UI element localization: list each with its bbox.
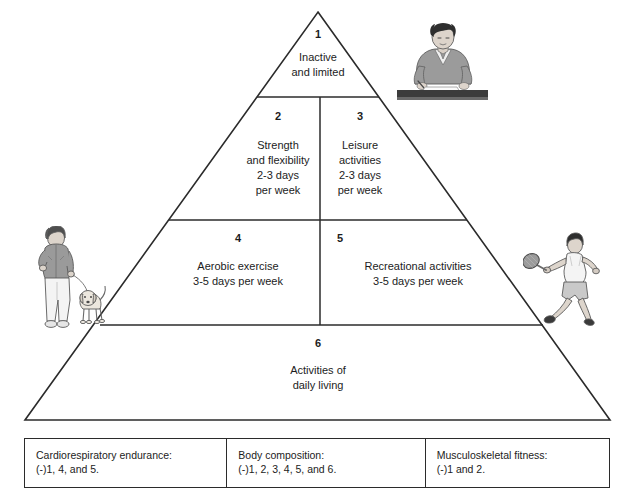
person-seated-at-desk-illustration bbox=[395, 22, 490, 102]
legend-cell-cardiorespiratory-endurance: Cardiorespiratory endurance: (-)1, 4, an… bbox=[25, 439, 226, 487]
legend-cell-musculoskeletal-fitness: Musculoskeletal fitness: (-)1 and 2. bbox=[425, 439, 609, 487]
tennis-player-illustration bbox=[523, 232, 605, 332]
tier-6-line-2: daily living bbox=[253, 378, 383, 393]
tier-5-line-2: 3-5 days per week bbox=[320, 274, 516, 289]
tier-4-number: 4 bbox=[218, 232, 258, 244]
legend-cell-2-detail: (-)1 and 2. bbox=[437, 462, 609, 476]
legend-cell-1-detail: (-)1, 2, 3, 4, 5, and 6. bbox=[238, 462, 424, 476]
legend-cell-0-detail: (-)1, 4, and 5. bbox=[36, 462, 226, 476]
legend-cell-2-title: Musculoskeletal fitness: bbox=[437, 448, 609, 462]
tier-1-line-2: and limited bbox=[258, 65, 378, 80]
tier-5-line-1: Recreational activities bbox=[320, 259, 516, 274]
legend-cell-body-composition: Body composition: (-)1, 2, 3, 4, 5, and … bbox=[226, 439, 424, 487]
tier-4-label: Aerobic exercise 3-5 days per week bbox=[150, 259, 326, 289]
tier-4-line-1: Aerobic exercise bbox=[150, 259, 326, 274]
legend-cell-0-title: Cardiorespiratory endurance: bbox=[36, 448, 226, 462]
legend-cell-1-title: Body composition: bbox=[238, 448, 424, 462]
figure-canvas: 1 Inactive and limited 2 Strength and fl… bbox=[0, 0, 634, 500]
tier-2-number: 2 bbox=[258, 110, 298, 122]
tier-6-line-1: Activities of bbox=[253, 363, 383, 378]
tier-6-number: 6 bbox=[298, 337, 338, 349]
tier-3-line-2: activities bbox=[300, 153, 420, 168]
tier-1-line-1: Inactive bbox=[258, 50, 378, 65]
tier-1-number: 1 bbox=[298, 28, 338, 40]
tier-4-line-2: 3-5 days per week bbox=[150, 274, 326, 289]
tier-3-line-4: per week bbox=[300, 183, 420, 198]
tier-5-label: Recreational activities 3-5 days per wee… bbox=[320, 259, 516, 289]
tier-6-label: Activities of daily living bbox=[253, 363, 383, 393]
tier-1-label: Inactive and limited bbox=[258, 50, 378, 80]
fitness-component-legend: Cardiorespiratory endurance: (-)1, 4, an… bbox=[24, 438, 610, 488]
tier-3-line-1: Leisure bbox=[300, 138, 420, 153]
person-walking-dog-illustration bbox=[26, 226, 108, 334]
tier-3-line-3: 2-3 days bbox=[300, 168, 420, 183]
tier-3-label: Leisure activities 2-3 days per week bbox=[300, 138, 420, 198]
tier-5-number: 5 bbox=[320, 232, 360, 244]
tier-3-number: 3 bbox=[340, 110, 380, 122]
